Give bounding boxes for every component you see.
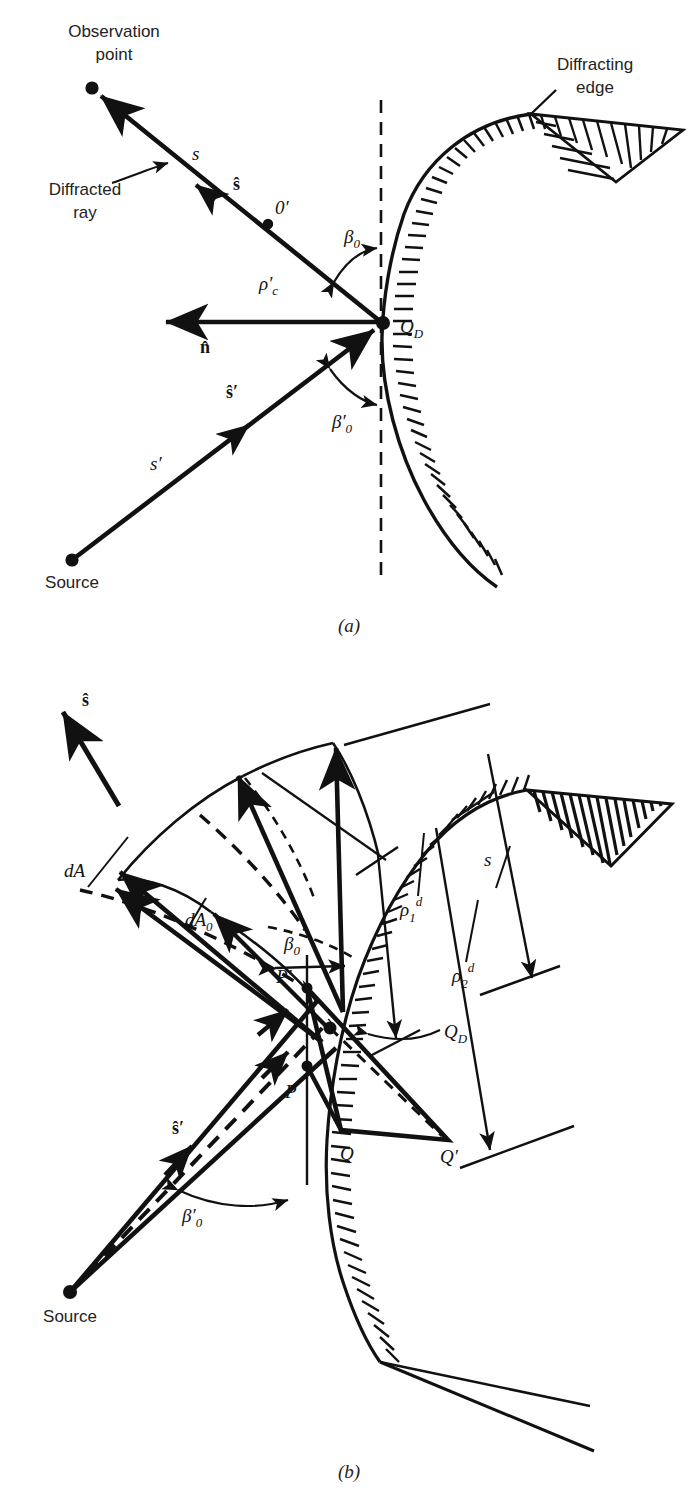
s-hat-prime-label: ŝ′ <box>226 382 238 402</box>
diffracted-ray-label-line1: Diffracted <box>49 180 121 199</box>
diffracting-edge-label-line2: edge <box>576 78 614 97</box>
observation-point-dot <box>85 81 98 94</box>
source-label: Source <box>45 573 99 592</box>
panel-a-caption: (a) <box>338 615 360 637</box>
source-point-dot-b <box>63 1285 77 1299</box>
diffracting-edge-label-line1: Diffracting <box>557 55 633 74</box>
s-hat-label-b: ŝ <box>82 690 89 710</box>
s-label-b: s <box>484 849 491 870</box>
source-label-b: Source <box>43 1307 97 1326</box>
source-point-dot <box>65 553 78 566</box>
s-hat-label: ŝ <box>233 174 240 194</box>
distance-s-label: s <box>192 143 199 164</box>
caustic-point-label: 0′ <box>275 197 290 218</box>
q-label: Q <box>340 1143 354 1164</box>
p-label: P <box>284 1081 297 1102</box>
dA-label: dA <box>64 860 86 881</box>
q-prime-label: Q′ <box>440 1146 459 1167</box>
qd-point-dot-a <box>376 316 390 330</box>
caustic-point-dot <box>263 219 273 229</box>
figure-container: Observation point 0′ s ŝ Diffracted ray … <box>0 0 698 1509</box>
n-hat-label: n̂ <box>200 337 210 357</box>
panel-b-caption: (b) <box>338 1461 360 1483</box>
p-prime-label: P′ <box>275 966 293 987</box>
observation-point-label-line2: point <box>96 45 133 64</box>
diffracted-ray-label-line2: ray <box>73 203 97 222</box>
s-hat-prime-label-b: ŝ′ <box>172 1118 184 1138</box>
diffraction-figure-svg: Observation point 0′ s ŝ Diffracted ray … <box>0 0 698 1509</box>
s-prime-label: s′ <box>150 453 162 474</box>
observation-point-label-line1: Observation <box>68 22 160 41</box>
